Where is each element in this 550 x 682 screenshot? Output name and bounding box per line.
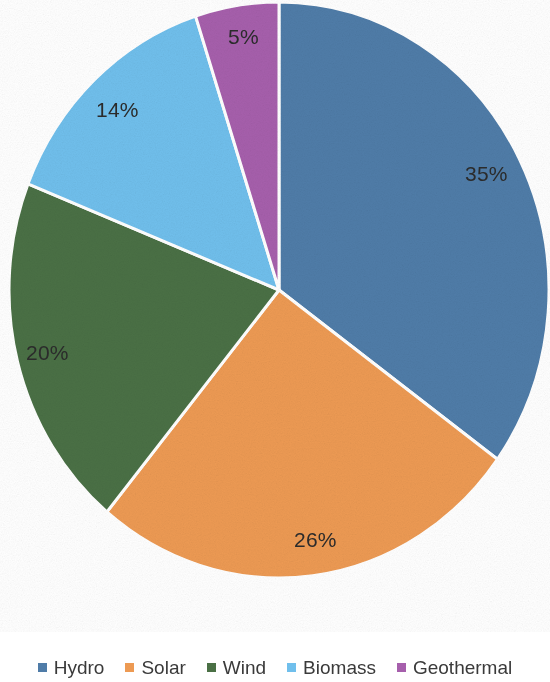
legend-swatch-icon-geothermal: [397, 663, 406, 672]
legend-label: Wind: [223, 658, 266, 677]
legend-label: Biomass: [303, 658, 376, 677]
legend-swatch-icon-solar: [125, 663, 134, 672]
chart-legend: HydroSolarWindBiomassGeothermal: [0, 652, 550, 682]
slice-label-hydro: 35%: [465, 163, 508, 184]
pie-plot-area: 35% 26% 20% 14% 5%: [0, 0, 550, 632]
legend-swatch-icon-hydro: [38, 663, 47, 672]
legend-item-solar[interactable]: Solar: [125, 658, 185, 677]
slice-label-geothermal: 5%: [228, 26, 259, 47]
slice-label-wind: 20%: [26, 342, 69, 363]
legend-swatch-icon-wind: [207, 663, 216, 672]
pie-slices: [9, 2, 549, 578]
slice-label-solar: 26%: [294, 529, 337, 550]
legend-label: Hydro: [54, 658, 105, 677]
legend-label: Solar: [141, 658, 185, 677]
pie-chart: 35% 26% 20% 14% 5% HydroSolarWindBiomass…: [0, 0, 550, 682]
pie-svg: [0, 0, 550, 632]
legend-item-geothermal[interactable]: Geothermal: [397, 658, 512, 677]
legend-swatch-icon-biomass: [287, 663, 296, 672]
legend-item-wind[interactable]: Wind: [207, 658, 266, 677]
slice-label-biomass: 14%: [96, 99, 139, 120]
legend-item-biomass[interactable]: Biomass: [287, 658, 376, 677]
legend-label: Geothermal: [413, 658, 512, 677]
legend-item-hydro[interactable]: Hydro: [38, 658, 105, 677]
